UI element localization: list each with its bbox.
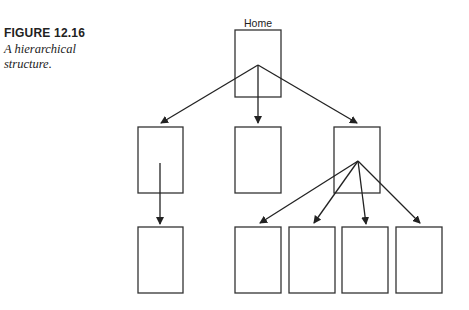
node-level1-middle	[235, 127, 281, 193]
node-level2-5	[396, 227, 442, 293]
node-level2-3	[289, 227, 335, 293]
node-level2-4	[342, 227, 388, 293]
node-level1-right	[334, 127, 380, 193]
home-label: Home	[244, 17, 272, 29]
hierarchy-diagram: Home	[0, 0, 469, 310]
node-level2-2	[235, 227, 281, 293]
node-level2-1	[138, 227, 183, 293]
